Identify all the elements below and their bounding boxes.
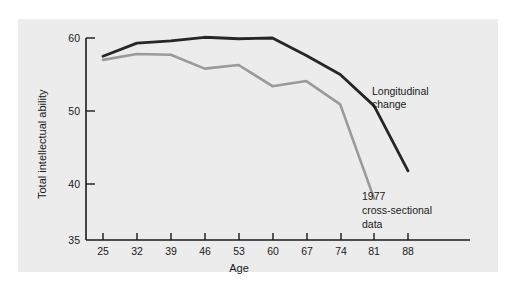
annotation-cross-sectional-line2: cross-sectional	[362, 204, 432, 216]
x-tick-label-25: 25	[97, 245, 109, 257]
annotation-cross-sectional: 1977 cross-sectional data	[362, 190, 432, 230]
y-tick-label-60: 60	[68, 32, 80, 44]
y-tick-label-50: 50	[68, 105, 80, 117]
x-tick-label-60: 60	[267, 245, 279, 257]
y-axis-title: Total intellectual ability	[36, 89, 48, 199]
series-line-longitudinal	[103, 37, 408, 171]
y-tick-marks	[86, 38, 95, 184]
x-axis-title: Age	[229, 262, 249, 274]
x-tick-label-74: 74	[335, 245, 347, 257]
annotation-longitudinal-line2: change	[372, 98, 407, 110]
x-tick-label-67: 67	[301, 245, 313, 257]
x-tick-label-46: 46	[199, 245, 211, 257]
line-chart: 60 50 40 35 Total intellectual ability 2…	[0, 0, 516, 291]
y-tick-label-35: 35	[68, 234, 80, 246]
y-tick-label-40: 40	[68, 178, 80, 190]
y-tick-labels: 60 50 40 35	[68, 32, 80, 246]
x-tick-label-39: 39	[165, 245, 177, 257]
x-tick-marks	[103, 233, 408, 240]
annotation-cross-sectional-line1: 1977	[362, 190, 386, 202]
figure-container: 60 50 40 35 Total intellectual ability 2…	[0, 0, 516, 291]
series-line-cross-sectional	[103, 54, 374, 199]
annotation-cross-sectional-line3: data	[362, 218, 383, 230]
x-tick-label-32: 32	[131, 245, 143, 257]
x-tick-label-81: 81	[368, 245, 380, 257]
annotation-longitudinal: Longitudinal change	[372, 85, 429, 110]
annotation-longitudinal-line1: Longitudinal	[372, 85, 429, 97]
x-tick-labels: 25 32 39 46 53 60 67 74 81 88	[97, 245, 414, 257]
x-tick-label-53: 53	[233, 245, 245, 257]
x-tick-label-88: 88	[402, 245, 414, 257]
